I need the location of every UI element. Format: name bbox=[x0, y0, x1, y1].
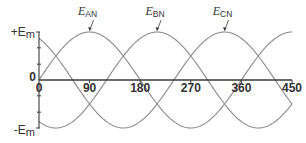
labels-group: 090180270360450+Em0-EmEANEBNECN bbox=[11, 4, 303, 138]
x-tick-label: 90 bbox=[83, 81, 97, 95]
y-label-minus-em: -Em bbox=[14, 123, 35, 138]
y-label-plus-em: +Em bbox=[11, 25, 35, 40]
x-tick-label: 360 bbox=[231, 81, 251, 95]
x-tick-label: 180 bbox=[130, 81, 150, 95]
x-tick-label: 270 bbox=[181, 81, 201, 95]
x-tick-label: 0 bbox=[36, 81, 43, 95]
y-label-zero: 0 bbox=[29, 70, 36, 84]
series-label-e-cn: ECN bbox=[212, 4, 233, 19]
series-label-e-an: EAN bbox=[77, 4, 97, 19]
x-tick-label: 450 bbox=[282, 81, 302, 95]
three-phase-voltage-chart: 090180270360450+Em0-EmEANEBNECN bbox=[0, 0, 306, 143]
series-label-e-bn: EBN bbox=[144, 4, 164, 19]
axes-group bbox=[36, 32, 292, 128]
